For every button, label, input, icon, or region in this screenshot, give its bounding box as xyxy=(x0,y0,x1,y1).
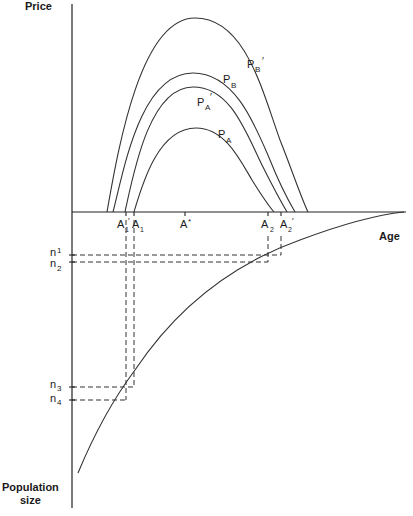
svg-text:A: A xyxy=(261,218,269,230)
label-n2: n 2 xyxy=(50,257,62,273)
svg-text:A: A xyxy=(205,103,211,112)
svg-text:P: P xyxy=(247,58,254,70)
svg-text:A: A xyxy=(132,218,140,230)
svg-text:P: P xyxy=(223,73,230,85)
svg-text:P: P xyxy=(218,128,225,140)
label-pb-prime: P B ′ xyxy=(247,56,264,74)
svg-text:3: 3 xyxy=(57,384,62,393)
label-pa: P A xyxy=(218,128,232,145)
age-axis-label: Age xyxy=(379,230,400,242)
svg-text:1: 1 xyxy=(140,226,144,233)
population-axis-label-line2: size xyxy=(20,494,41,506)
population-axis-label-line1: Population xyxy=(2,481,59,493)
price-axis-label: Price xyxy=(25,0,52,12)
label-n4: n 4 xyxy=(50,392,62,407)
svg-text:2: 2 xyxy=(270,226,274,233)
svg-text:n: n xyxy=(50,257,56,269)
population-curve xyxy=(78,212,404,473)
svg-text:4: 4 xyxy=(57,398,62,407)
curve-pa xyxy=(134,128,274,212)
label-a2: A 2 xyxy=(261,218,274,233)
svg-text:n: n xyxy=(50,392,56,404)
label-n3: n 3 xyxy=(50,378,62,393)
svg-text:2: 2 xyxy=(57,264,62,273)
svg-text:2: 2 xyxy=(288,226,292,233)
svg-text:′: ′ xyxy=(128,216,130,226)
svg-text:′: ′ xyxy=(262,56,264,67)
curve-pb-prime xyxy=(107,18,308,212)
svg-text:′: ′ xyxy=(292,216,294,226)
label-pb: P B xyxy=(223,73,236,90)
svg-text:1: 1 xyxy=(57,246,62,255)
svg-text:B: B xyxy=(255,65,260,74)
label-a-star: A * xyxy=(180,217,191,230)
svg-text:B: B xyxy=(231,81,236,90)
svg-text:A: A xyxy=(280,218,288,230)
label-pa-prime: P A ′ xyxy=(197,92,212,112)
label-a2-prime: A 2 ′ xyxy=(280,216,294,233)
price-population-age-diagram: Price Age Population size P B ′ P B P A … xyxy=(0,0,413,516)
svg-text:*: * xyxy=(188,217,191,226)
svg-text:A: A xyxy=(180,218,188,230)
svg-text:P: P xyxy=(197,96,204,108)
svg-text:A: A xyxy=(117,218,125,230)
svg-text:A: A xyxy=(226,136,232,145)
svg-text:n: n xyxy=(50,378,56,390)
label-a1-prime: A 1 ′ xyxy=(117,216,130,233)
svg-text:′: ′ xyxy=(210,92,212,103)
